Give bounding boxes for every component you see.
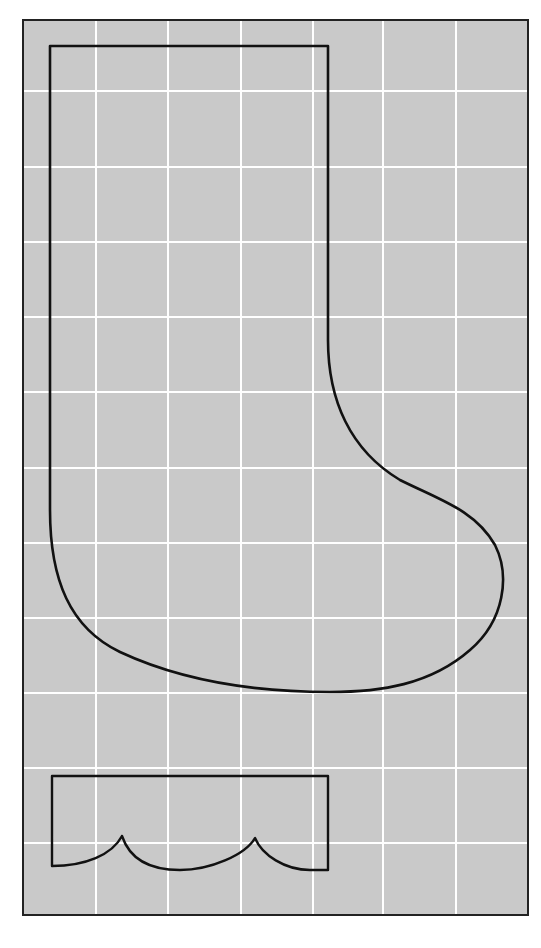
stocking-pattern-diagram bbox=[0, 0, 541, 948]
